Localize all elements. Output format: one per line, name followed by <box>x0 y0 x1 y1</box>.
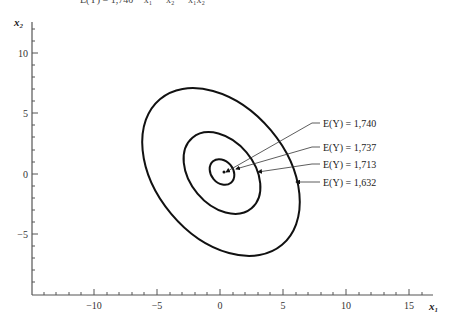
x-axis-label: x₁ <box>428 300 438 312</box>
x-tick-15: 15 <box>404 300 414 311</box>
x-tick-10: 10 <box>341 300 351 311</box>
y-tick-10: 10 <box>18 48 28 59</box>
y-axis-label: x₂ <box>13 16 24 28</box>
equation-title: E(Y) = 1,740 − x₁² − x₂² − x₁x₂ <box>80 0 205 6</box>
y-ticks <box>32 29 38 282</box>
contour-1713 <box>168 117 276 229</box>
x-tick-0: 0 <box>218 300 223 311</box>
y-tick-5: 5 <box>23 108 28 119</box>
label-1737: E(Y) = 1,737 <box>323 142 376 154</box>
y-tick-neg5: −5 <box>17 229 28 240</box>
contour-1737 <box>205 154 240 190</box>
contour-plot: E(Y) = 1,740 − x₁² − x₂² − x₁x₂ 10 5 0 −… <box>0 0 456 323</box>
stationary-point <box>223 171 226 174</box>
x-tick-neg5: −5 <box>152 300 163 311</box>
contours <box>110 57 332 286</box>
label-1632: E(Y) = 1,632 <box>323 177 376 189</box>
x-ticks <box>44 289 422 295</box>
label-1713: E(Y) = 1,713 <box>323 159 376 171</box>
label-1740: E(Y) = 1,740 <box>323 118 376 130</box>
y-tick-0: 0 <box>23 169 28 180</box>
contour-1632 <box>110 57 332 286</box>
x-tick-neg10: −10 <box>86 300 102 311</box>
x-tick-5: 5 <box>281 300 286 311</box>
